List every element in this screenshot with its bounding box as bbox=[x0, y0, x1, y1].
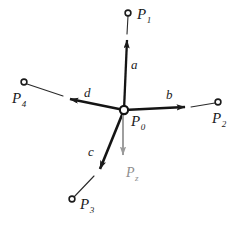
node-label-p0: P0 bbox=[131, 113, 145, 129]
vector-label-d: d bbox=[84, 86, 91, 99]
diagram-canvas bbox=[0, 0, 242, 225]
vector-d bbox=[70, 99, 124, 110]
vector-c bbox=[100, 110, 124, 169]
node-p4 bbox=[21, 79, 27, 85]
vector-a bbox=[124, 40, 127, 110]
vector-label-pz: Pz bbox=[126, 164, 138, 180]
vector-label-b: b bbox=[166, 88, 173, 101]
connector-line-p1 bbox=[127, 16, 128, 34]
node-label-p2: P2 bbox=[212, 110, 226, 126]
node-label-p4: P4 bbox=[12, 90, 26, 106]
vector-label-c: c bbox=[88, 145, 94, 158]
connector-line-p4 bbox=[27, 84, 63, 96]
node-label-p3: P3 bbox=[80, 196, 94, 212]
node-p2 bbox=[215, 99, 221, 105]
connector-line-p2 bbox=[191, 103, 215, 107]
vector-b bbox=[124, 107, 185, 110]
node-p0 bbox=[120, 106, 128, 114]
node-label-p1: P1 bbox=[137, 6, 151, 22]
connector-line-p3 bbox=[74, 176, 94, 197]
node-p3 bbox=[69, 196, 75, 202]
vector-diagram: P1 P2 P3 P4 P0 a b c d Pz bbox=[0, 0, 242, 225]
vector-label-a: a bbox=[131, 58, 138, 71]
node-p1 bbox=[125, 10, 131, 16]
